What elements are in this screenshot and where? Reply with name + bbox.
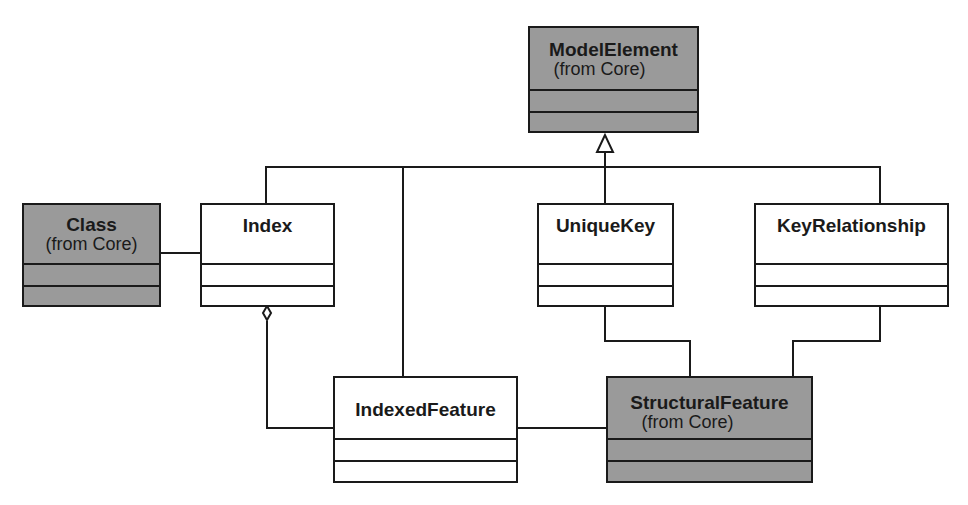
operations-compartment — [539, 287, 672, 305]
class-box-modelelement[interactable]: ModelElement (from Core) — [528, 26, 699, 133]
class-package: (from Core) — [553, 60, 645, 79]
class-box-keyrelationship[interactable]: KeyRelationship — [754, 203, 949, 307]
class-name: KeyRelationship — [777, 215, 926, 236]
name-compartment: IndexedFeature — [335, 378, 516, 440]
class-box-uniquekey[interactable]: UniqueKey — [537, 203, 674, 307]
class-box-class[interactable]: Class (from Core) — [22, 203, 161, 307]
keyrelationship-structuralfeature-line — [793, 306, 880, 376]
class-name: Class — [66, 214, 117, 235]
generalization-arrowhead-icon — [597, 135, 613, 152]
class-name: Index — [243, 215, 293, 236]
class-name: ModelElement — [549, 39, 678, 60]
class-box-indexedfeature[interactable]: IndexedFeature — [333, 376, 518, 483]
operations-compartment — [530, 113, 697, 131]
index-indexedfeature-aggregation-line — [267, 321, 333, 428]
operations-compartment — [756, 287, 947, 305]
generalization-bus — [266, 167, 880, 203]
operations-compartment — [202, 287, 333, 305]
class-package: (from Core) — [45, 235, 137, 254]
class-box-index[interactable]: Index — [200, 203, 335, 307]
attributes-compartment — [202, 265, 333, 287]
name-compartment: UniqueKey — [539, 205, 672, 265]
attributes-compartment — [335, 440, 516, 462]
attributes-compartment — [756, 265, 947, 287]
name-compartment: StructuralFeature (from Core) — [608, 378, 811, 440]
operations-compartment — [335, 462, 516, 481]
uniquekey-structuralfeature-line — [605, 306, 690, 376]
class-name: UniqueKey — [556, 215, 655, 236]
class-name: IndexedFeature — [355, 399, 495, 420]
name-compartment: ModelElement (from Core) — [530, 28, 697, 91]
name-compartment: Class (from Core) — [24, 205, 159, 265]
class-package: (from Core) — [641, 413, 733, 432]
attributes-compartment — [539, 265, 672, 287]
name-compartment: Index — [202, 205, 333, 265]
operations-compartment — [608, 462, 811, 481]
operations-compartment — [24, 287, 159, 305]
attributes-compartment — [24, 265, 159, 287]
class-name: StructuralFeature — [630, 392, 788, 413]
aggregation-diamond-icon — [263, 306, 271, 320]
name-compartment: KeyRelationship — [756, 205, 947, 265]
class-box-structuralfeature[interactable]: StructuralFeature (from Core) — [606, 376, 813, 483]
attributes-compartment — [608, 440, 811, 462]
attributes-compartment — [530, 91, 697, 113]
